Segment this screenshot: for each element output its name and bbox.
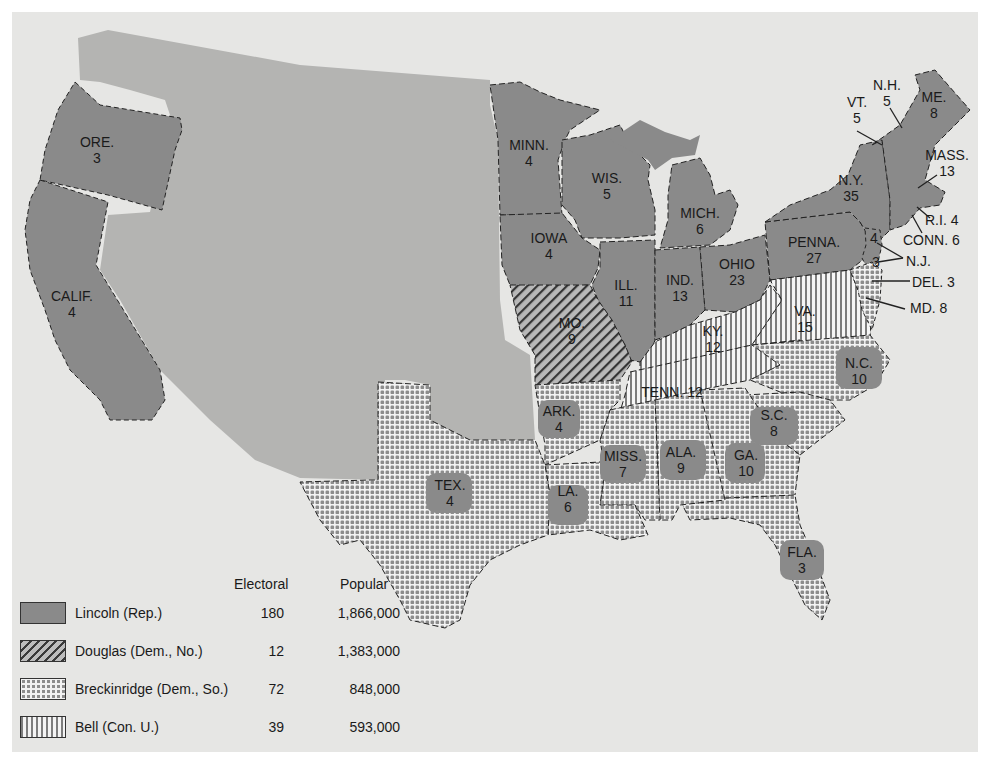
label-virginia: VA.15 bbox=[794, 303, 816, 335]
legend-electoral: 39 bbox=[240, 719, 284, 735]
swatch-hatch-icon bbox=[20, 640, 66, 662]
label-new-hampshire: N.H.5 bbox=[873, 77, 901, 109]
label-massachusetts: MASS.13 bbox=[925, 147, 969, 179]
legend-candidate: Lincoln (Rep.) bbox=[75, 605, 162, 621]
legend-row-bell: Bell (Con. U.) 39 593,000 bbox=[18, 716, 418, 754]
legend-row-lincoln: Lincoln (Rep.) 180 1,866,000 bbox=[18, 602, 418, 640]
label-delaware: DEL. 3 bbox=[912, 274, 955, 290]
legend-row-breckinridge: Breckinridge (Dem., So.) 72 848,000 bbox=[18, 678, 418, 716]
swatch-dots-icon bbox=[20, 678, 66, 700]
label-kentucky: KY.12 bbox=[703, 323, 724, 355]
legend-row-douglas: Douglas (Dem., No.) 12 1,383,000 bbox=[18, 640, 418, 678]
label-maryland: MD. 8 bbox=[910, 300, 948, 316]
legend-popular: 1,383,000 bbox=[318, 643, 400, 659]
legend-popular: 1,866,000 bbox=[318, 605, 400, 621]
legend-candidate: Bell (Con. U.) bbox=[75, 719, 159, 735]
legend-electoral: 72 bbox=[240, 681, 284, 697]
label-new-jersey: N.J. bbox=[906, 253, 931, 269]
legend-header: Electoral Popular bbox=[18, 576, 418, 602]
label-tennessee: TENN. 12 bbox=[641, 384, 703, 400]
label-nj-lincoln: 4 bbox=[870, 230, 878, 246]
label-connecticut: CONN. 6 bbox=[903, 232, 960, 248]
legend-electoral: 12 bbox=[240, 643, 284, 659]
label-nj-douglas: 3 bbox=[872, 254, 880, 270]
swatch-solid-icon bbox=[20, 602, 66, 624]
legend-header-popular: Popular bbox=[340, 576, 388, 592]
label-rhode-island: R.I. 4 bbox=[925, 212, 959, 228]
legend-header-electoral: Electoral bbox=[234, 576, 288, 592]
legend-popular: 848,000 bbox=[318, 681, 400, 697]
label-vermont: VT.5 bbox=[847, 94, 867, 126]
legend-candidate: Douglas (Dem., No.) bbox=[75, 643, 203, 659]
legend-popular: 593,000 bbox=[318, 719, 400, 735]
legend-electoral: 180 bbox=[240, 605, 284, 621]
legend: Electoral Popular Lincoln (Rep.) 180 1,8… bbox=[18, 576, 418, 754]
swatch-stripes-icon bbox=[20, 716, 66, 738]
legend-candidate: Breckinridge (Dem., So.) bbox=[75, 681, 228, 697]
